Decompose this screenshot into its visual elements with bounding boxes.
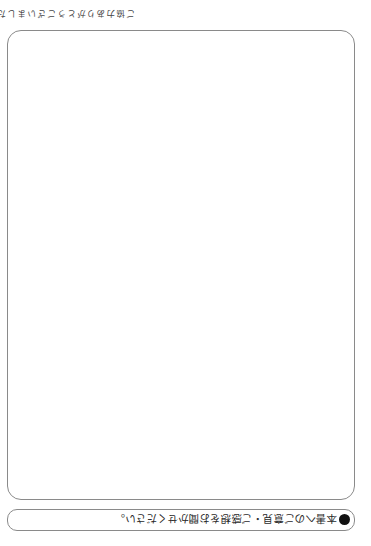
feedback-prompt-box: 本書へのご意見・ご感想をお聞かせください。 bbox=[7, 509, 355, 531]
bullet-icon bbox=[339, 515, 350, 526]
feedback-prompt-text: 本書へのご意見・ご感想をお聞かせください。 bbox=[114, 513, 337, 528]
closing-thanks-text: ご協力ありがとうございました。 bbox=[0, 9, 135, 21]
comment-writing-area[interactable] bbox=[7, 30, 355, 500]
feedback-page: 本書へのご意見・ご感想をお聞かせください。 ご協力ありがとうございました。 bbox=[0, 0, 371, 546]
